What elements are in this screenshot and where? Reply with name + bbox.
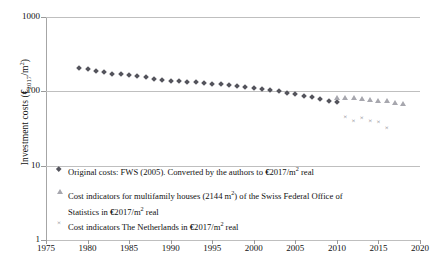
data-point: ×: [359, 115, 365, 121]
data-point: [259, 86, 265, 92]
data-point: [400, 101, 406, 106]
x-tick-label: 2010: [317, 244, 357, 253]
data-point: [184, 79, 190, 85]
y-axis-title-suffix: ): [20, 59, 30, 62]
legend-text-a: Cost indicators for multifamily houses (…: [68, 191, 231, 201]
legend-line2-c: real: [144, 207, 159, 217]
data-point: [201, 80, 207, 86]
data-point: [292, 91, 298, 97]
y-axis-title: Investment costs (€2017/m2): [18, 12, 32, 212]
data-point: [234, 83, 240, 89]
chart-figure: Investment costs (€2017/m2) 1000100101 1…: [0, 0, 432, 276]
data-point: [317, 96, 323, 102]
data-point: [243, 84, 249, 90]
data-point: [126, 72, 132, 78]
data-point: [135, 73, 141, 79]
data-point: [334, 99, 340, 105]
legend-text-a: Cost indicators The Netherlands in: [68, 222, 190, 232]
x-tick-label: 2000: [234, 244, 274, 253]
data-point: [392, 100, 398, 105]
legend-item-swiss-fso: Cost indicators for multifamily houses (…: [57, 187, 429, 218]
data-point: [160, 77, 166, 83]
data-point: [151, 76, 157, 82]
y-tick-label: 1000: [0, 12, 40, 21]
data-point: [309, 95, 315, 101]
data-point: [375, 98, 381, 103]
y-axis-title-prefix: Investment costs (: [20, 94, 30, 165]
data-point: [334, 95, 340, 100]
data-point: [118, 71, 124, 77]
x-tick-label: 2005: [275, 244, 315, 253]
y-axis-title-sup: 2: [18, 62, 25, 65]
legend-text-a: Original costs: FWS (2005). Converted by…: [68, 167, 265, 177]
legend-text-b: ) of the Swiss Federal Office of: [234, 191, 342, 201]
y-axis-title-mid: /m: [20, 66, 30, 76]
legend-line2-a: Statistics in: [68, 207, 110, 217]
data-point: [218, 82, 224, 88]
x-tick-label: 1980: [68, 244, 108, 253]
data-point: ×: [351, 118, 357, 124]
data-point: [276, 88, 282, 94]
data-point: [384, 98, 390, 103]
data-point: [176, 79, 182, 85]
x-tick-label: 2020: [400, 244, 432, 253]
y-tick-label: 1: [0, 235, 40, 244]
data-point: [168, 78, 174, 84]
legend-text-c: real: [223, 222, 238, 232]
x-tick-label: 2015: [358, 244, 398, 253]
legend-text-b: 2017/m: [194, 222, 220, 232]
gridline: [46, 240, 420, 241]
data-point: ×: [384, 125, 390, 131]
data-point: [268, 87, 274, 93]
data-point: [251, 85, 257, 91]
data-point: [193, 80, 199, 86]
legend-item-original-costs: Original costs: FWS (2005). Converted by…: [57, 163, 429, 178]
data-point: [367, 97, 373, 102]
x-tick-label: 1975: [26, 244, 66, 253]
data-point: [359, 96, 365, 101]
triangle-marker-icon: [57, 189, 63, 194]
data-point: [76, 65, 82, 71]
data-point: [301, 93, 307, 99]
data-point: [284, 90, 290, 96]
legend-text-c: real: [299, 167, 314, 177]
data-point: [342, 95, 348, 100]
data-point: [101, 69, 107, 75]
x-tick-label: 1995: [192, 244, 232, 253]
data-point: ×: [375, 119, 381, 125]
data-point: [110, 71, 116, 77]
y-tick-label: 10: [0, 161, 40, 170]
y-tick-label: 100: [0, 86, 40, 95]
chart-legend: Original costs: FWS (2005). Converted by…: [57, 163, 429, 233]
data-point: [85, 66, 91, 72]
cross-marker-icon: ×: [57, 220, 61, 227]
data-point: [143, 74, 149, 80]
legend-text-b: 2017/m: [269, 167, 295, 177]
data-point: ×: [367, 118, 373, 124]
data-point: ×: [342, 114, 348, 120]
data-point: [93, 68, 99, 74]
legend-line2-b: 2017/m: [114, 207, 140, 217]
x-tick-label: 1990: [151, 244, 191, 253]
data-point: [326, 98, 332, 104]
x-tick-label: 1985: [109, 244, 149, 253]
diamond-marker-icon: [56, 166, 61, 171]
data-point: [209, 81, 215, 87]
data-point: [226, 82, 232, 88]
data-point: [351, 95, 357, 100]
legend-item-netherlands: ×Cost indicators The Netherlands in €201…: [57, 218, 429, 233]
